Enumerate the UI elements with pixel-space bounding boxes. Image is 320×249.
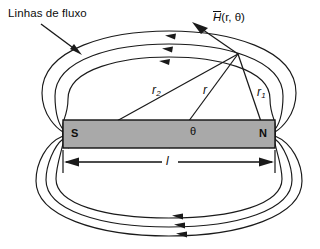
flux-arrow-top-inner	[159, 59, 170, 65]
radius-r-label: r	[203, 84, 207, 96]
radius-r1-label: r1	[257, 86, 266, 100]
flux-arrow-bottom-middle	[174, 223, 185, 229]
north-pole-label: N	[259, 128, 267, 139]
flux-arrow-top-middle	[162, 47, 173, 53]
flux-lines-label: Linhas de fluxo	[8, 8, 87, 20]
magnetic-dipole-diagram: Linhas de fluxo H(r, θ) r2 r r1 S N θ l	[0, 0, 320, 249]
callout-arrow-shaft	[41, 24, 76, 50]
radius-r2-label: r2	[152, 84, 161, 98]
radius-r1-subscript: 1	[261, 91, 265, 100]
theta-angle-label: θ	[190, 126, 196, 137]
south-pole-label: S	[71, 128, 78, 139]
flux-arrow-top-outer	[165, 34, 176, 40]
magnet-bar	[63, 120, 275, 148]
dimension-arrow-right	[259, 158, 274, 167]
length-label: l	[166, 155, 169, 167]
flux-arrow-bottom-inner	[172, 214, 183, 220]
length-dimension	[63, 150, 275, 173]
flux-callout-arrow	[41, 24, 82, 55]
flux-arrow-bottom-outer	[176, 232, 187, 238]
dimension-arrow-left	[64, 158, 79, 167]
callout-arrow-head	[70, 44, 82, 55]
h-field-label: H(r, θ)	[213, 12, 245, 24]
radius-r2-subscript: 2	[156, 89, 160, 98]
h-field-label-args: (r, θ)	[221, 11, 245, 23]
h-field-label-symbol: H	[213, 12, 221, 24]
diagram-canvas	[0, 0, 320, 249]
